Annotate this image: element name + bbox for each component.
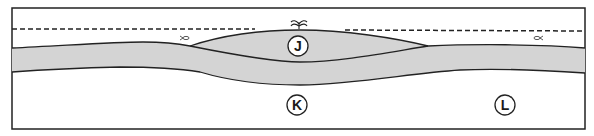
- label-l-text: L: [501, 97, 510, 113]
- cross-section-diagram: J K L: [0, 0, 594, 136]
- label-j: J: [288, 36, 308, 56]
- label-k-text: K: [292, 97, 302, 113]
- label-j-text: J: [294, 38, 302, 54]
- label-k: K: [287, 95, 307, 115]
- label-l: L: [495, 95, 515, 115]
